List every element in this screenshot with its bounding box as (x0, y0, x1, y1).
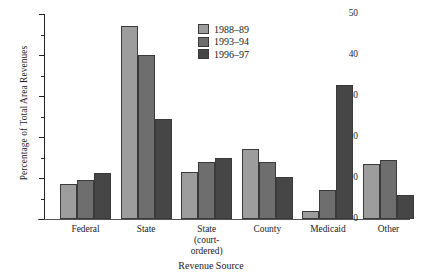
y-tick-minor (41, 117, 45, 118)
bar (94, 173, 111, 219)
bar (77, 180, 94, 219)
x-axis-category-label-line: Other (344, 224, 422, 235)
y-tick-minor (41, 76, 45, 77)
legend-label: 1993–94 (214, 36, 249, 47)
bar (397, 195, 414, 219)
y-tick-minor (41, 158, 45, 159)
y-tick-major (39, 137, 44, 138)
y-tick-major (39, 219, 44, 220)
x-axis-category-label-line: ordered) (162, 246, 252, 257)
bar (363, 164, 380, 219)
x-axis-category-label-line: (court- (162, 235, 252, 246)
y-tick-minor (41, 199, 45, 200)
bar (60, 184, 77, 219)
legend-item: 1988–89 (198, 23, 249, 35)
y-tick-major (39, 55, 44, 56)
bar (215, 158, 232, 219)
legend-label: 1996–97 (214, 49, 249, 60)
x-axis-category-label: Other (344, 224, 422, 235)
y-axis-line (44, 14, 45, 219)
y-axis-title: Percentage of Total Area Revenues (19, 13, 29, 213)
legend-item: 1996–97 (198, 48, 249, 60)
y-tick-major (39, 178, 44, 179)
bar-group (363, 14, 414, 219)
bar (138, 55, 155, 219)
y-tick-major (39, 14, 44, 15)
y-tick-minor (41, 35, 45, 36)
bar (276, 177, 293, 219)
bar (319, 190, 336, 219)
bar-group (242, 14, 293, 219)
bar (336, 85, 353, 219)
bar (259, 162, 276, 219)
legend-item: 1993–94 (198, 36, 249, 48)
bar-group (60, 14, 111, 219)
bar-chart: Percentage of Total Area Revenues Revenu… (0, 0, 422, 276)
bar (198, 162, 215, 219)
x-axis-title: Revenue Source (0, 260, 422, 271)
bar (181, 172, 198, 219)
legend: 1988–891993–941996–97 (198, 23, 249, 61)
bar (380, 160, 397, 219)
bar (302, 211, 319, 219)
bar-group (121, 14, 172, 219)
y-tick-major (39, 96, 44, 97)
bar (121, 26, 138, 219)
legend-swatch (198, 37, 209, 47)
bar (155, 119, 172, 219)
bar (242, 149, 259, 219)
legend-swatch (198, 24, 209, 34)
legend-swatch (198, 49, 209, 59)
bar-group (302, 14, 353, 219)
legend-label: 1988–89 (214, 24, 249, 35)
